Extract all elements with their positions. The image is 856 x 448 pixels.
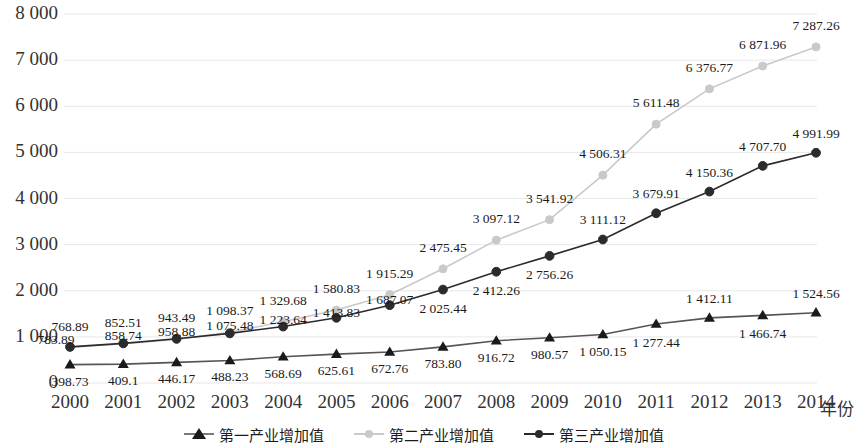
x-axis-tick-label: 2010: [573, 391, 633, 413]
legend-item-3[interactable]: 第三产业增加值: [524, 424, 664, 445]
data-label: 6 376.77: [669, 60, 749, 76]
x-axis-tick-label: 2003: [200, 391, 260, 413]
y-axis-tick-label: 5 000: [15, 140, 58, 162]
data-label: 1 466.74: [723, 326, 803, 342]
data-label: 2 412.26: [456, 283, 536, 299]
data-label: 2 025.44: [403, 301, 483, 317]
legend-label: 第三产业增加值: [559, 424, 664, 445]
x-axis-tick-label: 2009: [520, 391, 580, 413]
data-label: 5 611.48: [616, 95, 696, 111]
x-axis-tick-label: 2004: [253, 391, 313, 413]
x-axis-tick-label: 2006: [360, 391, 420, 413]
circle-marker: [524, 427, 554, 441]
y-axis-tick-label: 3 000: [15, 233, 58, 255]
data-label: 2 756.26: [510, 267, 590, 283]
x-axis-tick-label: 2013: [733, 391, 793, 413]
x-axis-tick-label: 2005: [306, 391, 366, 413]
data-label: 1 412.11: [669, 291, 749, 307]
data-label: 1 524.56: [776, 286, 856, 302]
legend-label: 第一产业增加值: [219, 424, 324, 445]
data-label: 4 991.99: [776, 126, 856, 142]
data-label: 6 871.96: [723, 37, 803, 53]
circle-marker: [354, 427, 384, 441]
x-axis-tick-label: 2000: [40, 391, 100, 413]
data-label: 4 506.31: [563, 146, 643, 162]
data-label: 3 097.12: [456, 211, 536, 227]
y-axis-tick-label: 4 000: [15, 187, 58, 209]
triangle-marker: [184, 427, 214, 441]
data-label: 1 277.44: [616, 335, 696, 351]
legend-item-2[interactable]: 第二产业增加值: [354, 424, 494, 445]
x-axis-title: 年份: [820, 395, 854, 420]
y-axis-tick-label: 2 000: [15, 279, 58, 301]
data-label: 4 150.36: [669, 165, 749, 181]
y-axis-tick-label: 8 000: [15, 2, 58, 24]
data-label: 3 541.92: [510, 191, 590, 207]
data-label: 7 287.26: [776, 18, 856, 34]
data-label: 2 475.45: [403, 240, 483, 256]
data-label: 3 679.91: [616, 186, 696, 202]
chart-legend: 第一产业增加值第二产业增加值第三产业增加值: [0, 420, 847, 448]
x-axis-tick-label: 2001: [93, 391, 153, 413]
x-axis-tick-label: 2007: [413, 391, 473, 413]
y-axis-tick-label: 7 000: [15, 48, 58, 70]
legend-label: 第二产业增加值: [389, 424, 494, 445]
x-axis-tick-label: 2002: [147, 391, 207, 413]
data-label: 1 915.29: [350, 266, 430, 282]
legend-item-1[interactable]: 第一产业增加值: [184, 424, 324, 445]
y-axis-tick-label: 6 000: [15, 94, 58, 116]
x-axis-tick-label: 2008: [466, 391, 526, 413]
x-axis-tick-label: 2012: [679, 391, 739, 413]
data-label: 3 111.12: [563, 212, 643, 228]
x-axis-tick-label: 2011: [626, 391, 686, 413]
